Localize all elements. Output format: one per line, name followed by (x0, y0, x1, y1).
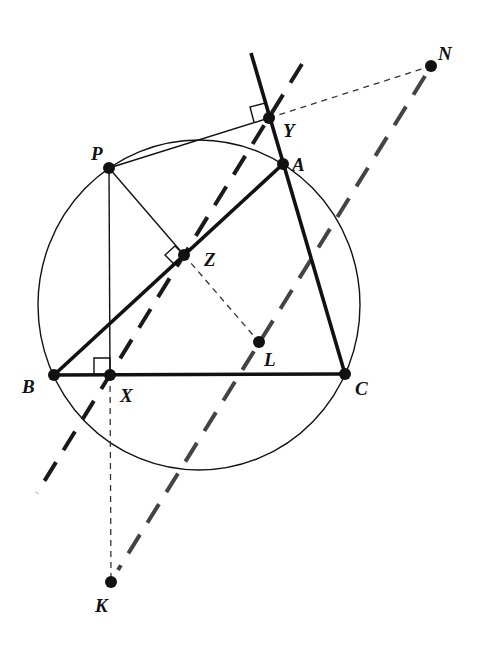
point-P (103, 162, 115, 174)
label-N: N (437, 43, 453, 64)
points (48, 60, 437, 588)
label-Z: Z (203, 249, 216, 270)
triangle-sides (54, 53, 345, 375)
line-CA-extended (251, 53, 345, 374)
point-A (277, 158, 289, 170)
point-X (104, 369, 116, 381)
segment-ZL (184, 255, 259, 342)
segment-XK (110, 375, 111, 582)
label-K: K (94, 595, 109, 616)
point-N (425, 60, 437, 72)
geometry-diagram: ABCPXYZLNK (0, 0, 481, 645)
point-Z (178, 249, 190, 261)
point-B (48, 369, 60, 381)
label-A: A (291, 154, 305, 175)
point-C (339, 368, 351, 380)
segment-PY (109, 118, 269, 168)
parallel-dashed-lines (37, 64, 425, 570)
side-BC (54, 374, 345, 375)
label-L: L (263, 349, 276, 370)
segment-PZ (109, 168, 184, 255)
label-C: C (355, 378, 368, 399)
label-X: X (119, 385, 134, 406)
point-Y (263, 112, 275, 124)
point-L (253, 336, 265, 348)
point-labels: ABCPXYZLNK (21, 43, 453, 616)
circumcircle (38, 140, 360, 470)
segment-YN (269, 66, 431, 118)
point-K (105, 576, 117, 588)
segment-PX (109, 168, 110, 375)
side-BA (54, 164, 283, 375)
circumcircle-layer (38, 140, 360, 470)
simson-line (37, 64, 302, 493)
label-Y: Y (283, 120, 297, 141)
label-P: P (90, 143, 103, 164)
right-angle-markers (94, 103, 269, 375)
label-B: B (21, 376, 35, 397)
